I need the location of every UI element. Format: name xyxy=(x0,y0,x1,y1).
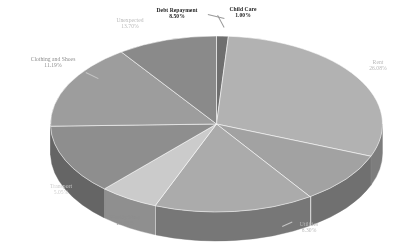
slice-label-child-care: Child Care 1.00% xyxy=(219,6,267,19)
slice-label-unexpected: Unexpected 13.70% xyxy=(104,17,156,30)
pie-chart: Debt Repayment 8.50% Child Care 1.00% Un… xyxy=(0,0,417,250)
slice-label-utilities: Utilities 8.30% xyxy=(286,221,332,234)
slice-label-percent: 13.70% xyxy=(104,23,156,29)
slice-label-percent: 5.05% xyxy=(37,189,85,195)
slice-label-clothing-and-shoes: Clothing and Shoes 11.19% xyxy=(15,56,91,69)
slice-label-percent: 1.00% xyxy=(219,12,267,18)
slice-label-weekly-shop: Weekly Shop 13.60% xyxy=(96,214,154,227)
slice-label-percent: 26.08% xyxy=(357,65,399,71)
slice-label-percent: 13.60% xyxy=(96,220,154,226)
slice-label-transport: Transport 5.05% xyxy=(37,183,85,196)
pie-chart-graphic xyxy=(0,0,417,250)
slice-label-percent: 8.30% xyxy=(286,227,332,233)
slice-label-percent: 11.19% xyxy=(15,62,91,68)
slice-label-rent: Rent 26.08% xyxy=(357,59,399,72)
